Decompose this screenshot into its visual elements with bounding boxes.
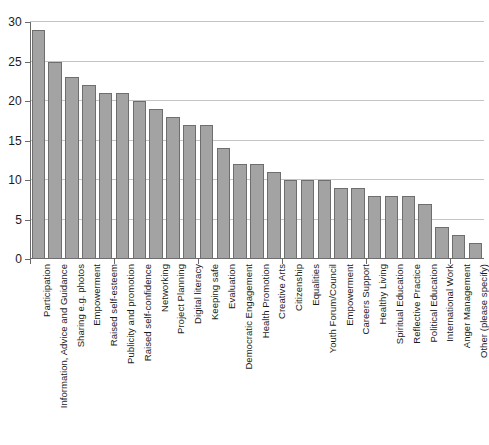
- bar: [284, 180, 297, 259]
- x-axis-label: Raised self-confidence: [143, 264, 153, 361]
- y-tick-label-30: 30: [8, 15, 22, 29]
- x-axis-label: Citizenship: [294, 264, 304, 311]
- y-tick-30: [25, 22, 30, 23]
- x-axis-label: Democratic Engagement: [244, 264, 254, 370]
- y-tick-15: [25, 141, 30, 142]
- bar: [318, 180, 331, 259]
- bar: [48, 62, 61, 260]
- bar: [200, 125, 213, 259]
- x-axis-label: Anger Management: [462, 264, 472, 348]
- y-tick-label-20: 20: [8, 94, 22, 108]
- x-axis-label: Equalities: [311, 264, 321, 306]
- bar: [116, 93, 129, 259]
- x-axis-label: Empowerment: [345, 264, 355, 326]
- y-tick-label-10: 10: [8, 173, 22, 187]
- bar: [32, 30, 45, 259]
- x-axis-label: International Work: [445, 264, 455, 342]
- x-axis-label: Reflective Practice: [412, 264, 422, 344]
- bar: [385, 196, 398, 259]
- bar: [435, 227, 448, 259]
- x-axis-tick-labels: ParticipationInformation, Advice and Gui…: [30, 264, 484, 442]
- x-axis-label: Evaluation: [227, 264, 237, 309]
- bar: [250, 164, 263, 259]
- x-axis-label: Youth Forum/Council: [328, 264, 338, 353]
- bars-group: [30, 22, 484, 259]
- bar: [217, 148, 230, 259]
- x-axis-label: Sharing e.g. photos: [76, 264, 86, 347]
- x-axis-label: Networking: [160, 264, 170, 312]
- bar: [301, 180, 314, 259]
- bar: [452, 235, 465, 259]
- x-axis-label: Spiritual Education: [395, 264, 405, 344]
- bar: [233, 164, 246, 259]
- bar: [334, 188, 347, 259]
- x-axis-label: Digital literacy: [193, 264, 203, 324]
- bar: [149, 109, 162, 259]
- x-axis-label: Empowerment: [92, 264, 102, 326]
- x-axis-label: Other (please specify): [479, 264, 489, 358]
- y-tick-label-25: 25: [8, 55, 22, 69]
- bar: [133, 101, 146, 259]
- y-tick-label-5: 5: [15, 213, 22, 227]
- y-axis: [30, 22, 31, 260]
- bar: [82, 85, 95, 259]
- x-axis-label: Keeping safe: [210, 264, 220, 320]
- x-axis-label: Careers Support: [361, 264, 371, 334]
- bar: [418, 204, 431, 259]
- y-tick-label-15: 15: [8, 134, 22, 148]
- bar: [99, 93, 112, 259]
- bar: [183, 125, 196, 259]
- bar: [469, 243, 482, 259]
- y-tick-label-0: 0: [15, 252, 22, 266]
- y-tick-25: [25, 62, 30, 63]
- x-axis-label: Publicity and promotion: [126, 264, 136, 364]
- plot-area: [30, 22, 484, 259]
- bar: [351, 188, 364, 259]
- x-axis-label: Project Planning: [176, 264, 186, 334]
- y-tick-10: [25, 180, 30, 181]
- x-axis-label: Raised self-esteem: [109, 264, 119, 346]
- bar: [402, 196, 415, 259]
- bar: [166, 117, 179, 259]
- y-tick-20: [25, 101, 30, 102]
- x-axis-label: Information, Advice and Guidance: [59, 264, 69, 408]
- x-axis-label: Political Education: [429, 264, 439, 343]
- y-tick-5: [25, 220, 30, 221]
- bar: [267, 172, 280, 259]
- x-axis-label: Healthy Living: [378, 264, 388, 324]
- x-axis-label: Creative Arts: [277, 264, 287, 319]
- x-axis-label: Participation: [42, 264, 52, 317]
- x-axis-label: Health Promotion: [261, 264, 271, 338]
- bar: [368, 196, 381, 259]
- bar: [65, 77, 78, 259]
